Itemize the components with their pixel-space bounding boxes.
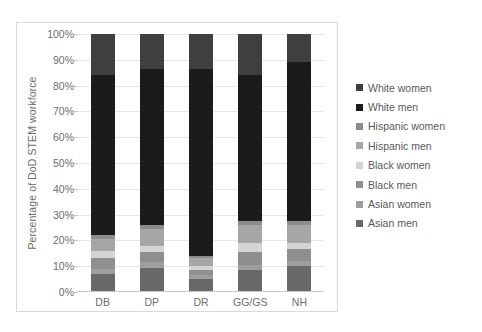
legend-swatch-icon [356,123,363,130]
bar-segment[interactable] [189,266,213,270]
bar-segment[interactable] [140,69,164,225]
y-axis-tick-label: 10% [40,260,74,272]
y-axis-tick-label: 60% [40,131,74,143]
bar-segment[interactable] [287,225,311,243]
bar-segment[interactable] [140,262,164,267]
y-axis-tick-label: 90% [40,54,74,66]
y-axis-tick-label: 0% [40,286,74,298]
bar-segment[interactable] [238,34,262,75]
x-axis-tick-label: GG/GS [233,296,267,308]
legend-swatch-icon [356,181,363,188]
bar-column[interactable] [91,34,115,292]
bar-segment[interactable] [189,256,213,259]
bar-segment[interactable] [189,275,213,279]
legend-item-label: Black men [368,179,417,191]
y-axis-tick-label: 50% [40,157,74,169]
bar-segment[interactable] [91,258,115,268]
bar-segment[interactable] [140,229,164,246]
legend-item[interactable]: Black men [356,175,476,194]
legend-swatch-icon [356,84,363,91]
bar-segment[interactable] [91,34,115,75]
legend-swatch-icon [356,142,363,149]
x-axis-tick-label: DB [95,296,110,308]
bar-segment[interactable] [238,265,262,270]
legend-item-label: Black women [368,159,430,171]
bar-segment[interactable] [91,274,115,292]
bar-segment[interactable] [238,221,262,225]
bar-segment[interactable] [287,62,311,221]
bar-segment[interactable] [238,75,262,221]
bar-segment[interactable] [189,270,213,275]
bar-segment[interactable] [238,243,262,252]
bar-column[interactable] [287,34,311,292]
y-axis-tick-label: 40% [40,183,74,195]
bar-segment[interactable] [287,34,311,62]
bar-segment[interactable] [91,269,115,274]
y-axis-tick-label: 80% [40,80,74,92]
legend-swatch-icon [356,104,363,111]
bar-segment[interactable] [140,246,164,252]
bar-segment[interactable] [189,34,213,69]
legend-item-label: Hispanic men [368,140,432,152]
x-axis-tick-label: DP [145,296,160,308]
x-axis-tick-label: DR [193,296,208,308]
bar-segment[interactable] [140,225,164,229]
bar-segment[interactable] [140,252,164,262]
bar-segment[interactable] [189,258,213,266]
y-axis-tick-label: 100% [40,28,74,40]
legend-item-label: White women [368,82,432,94]
legend-swatch-icon [356,162,363,169]
bar-segment[interactable] [287,249,311,261]
y-axis-title: Percentage of DoD STEM workforce [25,34,39,292]
bar-segment[interactable] [238,252,262,265]
legend-item[interactable]: White men [356,97,476,116]
bar-column[interactable] [238,34,262,292]
bar-segment[interactable] [91,239,115,251]
bar-segment[interactable] [140,34,164,69]
legend-item[interactable]: Hispanic women [356,117,476,136]
legend-item[interactable]: Asian men [356,214,476,233]
chart-legend: White womenWhite menHispanic womenHispan… [356,78,476,233]
bar-segment[interactable] [238,225,262,243]
legend-item-label: Asian women [368,198,431,210]
legend-item[interactable]: Asian women [356,194,476,213]
bar-segment[interactable] [91,235,115,239]
plot-area [78,34,324,292]
x-axis-line [78,291,324,292]
legend-item-label: Asian men [368,217,418,229]
legend-item[interactable]: White women [356,78,476,97]
bar-column[interactable] [140,34,164,292]
bar-segment[interactable] [287,261,311,266]
y-axis-tick-label: 70% [40,105,74,117]
legend-item[interactable]: Black women [356,156,476,175]
bar-segment[interactable] [287,266,311,292]
bar-segment[interactable] [140,268,164,293]
legend-swatch-icon [356,201,363,208]
legend-item-label: White men [368,101,418,113]
legend-swatch-icon [356,220,363,227]
bar-segment[interactable] [91,251,115,259]
legend-item[interactable]: Hispanic men [356,136,476,155]
y-axis-tick-label: 30% [40,209,74,221]
y-axis-tick-labels: 0%10%20%30%40%50%60%70%80%90%100% [38,34,74,292]
bar-segment[interactable] [287,221,311,225]
bar-segment[interactable] [287,243,311,249]
y-axis-tick-label: 20% [40,234,74,246]
legend-item-label: Hispanic women [368,120,445,132]
bar-column[interactable] [189,34,213,292]
bar-segment[interactable] [238,270,262,292]
bar-segment[interactable] [189,69,213,256]
y-axis-tick-mark [74,292,78,293]
x-axis-tick-label: NH [292,296,307,308]
bar-segment[interactable] [91,75,115,235]
